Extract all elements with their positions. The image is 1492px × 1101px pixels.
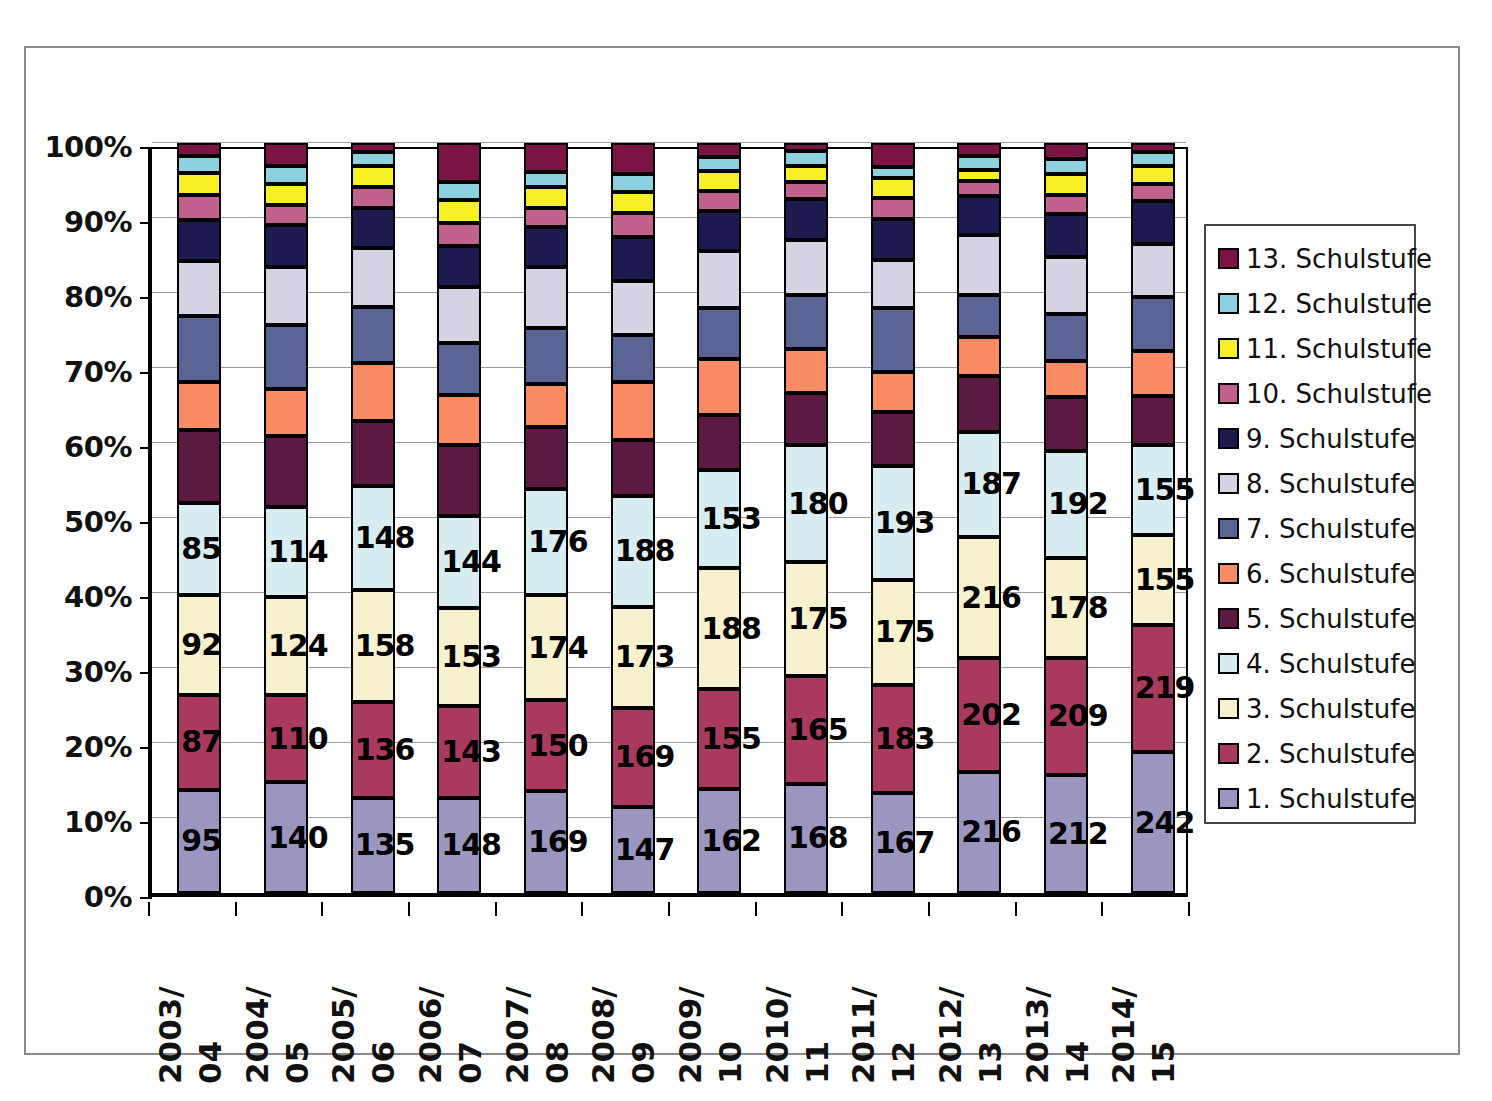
bar-segment[interactable] bbox=[437, 343, 481, 395]
bar-segment[interactable] bbox=[177, 220, 221, 261]
bar-segment[interactable]: 169 bbox=[611, 708, 655, 807]
bar-segment[interactable] bbox=[264, 184, 308, 205]
bar-segment[interactable]: 176 bbox=[524, 489, 568, 596]
bar-segment[interactable] bbox=[697, 157, 741, 171]
bar-segment[interactable] bbox=[871, 219, 915, 260]
bar-segment[interactable]: 148 bbox=[437, 798, 481, 893]
bar-segment[interactable] bbox=[871, 167, 915, 178]
bar-segment[interactable] bbox=[1044, 159, 1088, 174]
bar-segment[interactable]: 242 bbox=[1131, 752, 1175, 893]
bar-segment[interactable] bbox=[697, 415, 741, 470]
legend-item[interactable]: 8. Schulstufe bbox=[1218, 461, 1414, 506]
bar-2007--08[interactable]: 169150174176 bbox=[524, 143, 568, 893]
bar-segment[interactable]: 169 bbox=[524, 791, 568, 893]
bar-segment[interactable] bbox=[1131, 152, 1175, 166]
bar-2011--12[interactable]: 167183175193 bbox=[871, 143, 915, 893]
bar-segment[interactable] bbox=[177, 261, 221, 316]
bar-segment[interactable]: 143 bbox=[437, 706, 481, 798]
bar-segment[interactable]: 193 bbox=[871, 466, 915, 581]
bar-segment[interactable] bbox=[437, 182, 481, 200]
bar-segment[interactable]: 110 bbox=[264, 695, 308, 782]
bar-segment[interactable]: 114 bbox=[264, 507, 308, 597]
bar-segment[interactable] bbox=[264, 325, 308, 390]
bar-segment[interactable]: 178 bbox=[1044, 558, 1088, 658]
bar-segment[interactable] bbox=[1131, 143, 1175, 152]
bar-segment[interactable] bbox=[697, 211, 741, 252]
bar-segment[interactable]: 209 bbox=[1044, 658, 1088, 775]
bar-segment[interactable] bbox=[957, 196, 1001, 235]
bar-segment[interactable]: 187 bbox=[957, 432, 1001, 537]
legend-item[interactable]: 6. Schulstufe bbox=[1218, 551, 1414, 596]
bar-segment[interactable]: 95 bbox=[177, 790, 221, 894]
bar-segment[interactable] bbox=[611, 174, 655, 192]
bar-segment[interactable] bbox=[177, 430, 221, 503]
bar-segment[interactable] bbox=[1044, 143, 1088, 159]
legend-item[interactable]: 7. Schulstufe bbox=[1218, 506, 1414, 551]
legend-item[interactable]: 13. Schulstufe bbox=[1218, 236, 1414, 281]
bar-segment[interactable] bbox=[351, 166, 395, 186]
bar-segment[interactable]: 219 bbox=[1131, 625, 1175, 753]
bar-segment[interactable] bbox=[351, 307, 395, 363]
bar-segment[interactable] bbox=[784, 349, 828, 393]
bar-segment[interactable] bbox=[611, 237, 655, 281]
bar-segment[interactable]: 147 bbox=[611, 807, 655, 893]
bar-segment[interactable] bbox=[524, 172, 568, 188]
bar-segment[interactable] bbox=[264, 143, 308, 166]
bar-segment[interactable]: 140 bbox=[264, 782, 308, 893]
bar-2010--11[interactable]: 168165175180 bbox=[784, 143, 828, 893]
bar-segment[interactable] bbox=[351, 421, 395, 486]
bar-segment[interactable] bbox=[784, 240, 828, 296]
bar-2005--06[interactable]: 135136158148 bbox=[351, 143, 395, 893]
bar-segment[interactable] bbox=[871, 412, 915, 466]
bar-segment[interactable]: 216 bbox=[957, 537, 1001, 659]
bar-segment[interactable] bbox=[611, 213, 655, 237]
bar-2008--09[interactable]: 147169173188 bbox=[611, 143, 655, 893]
bar-segment[interactable]: 168 bbox=[784, 784, 828, 894]
bar-segment[interactable] bbox=[524, 267, 568, 329]
bar-segment[interactable]: 188 bbox=[697, 568, 741, 689]
legend-item[interactable]: 9. Schulstufe bbox=[1218, 416, 1414, 461]
bar-segment[interactable] bbox=[957, 295, 1001, 338]
bar-segment[interactable] bbox=[177, 173, 221, 195]
bar-segment[interactable] bbox=[1044, 214, 1088, 258]
bar-segment[interactable]: 188 bbox=[611, 496, 655, 606]
bar-segment[interactable] bbox=[264, 389, 308, 436]
bar-segment[interactable]: 165 bbox=[784, 676, 828, 783]
bar-segment[interactable]: 173 bbox=[611, 607, 655, 708]
bar-segment[interactable] bbox=[1044, 361, 1088, 397]
bar-segment[interactable] bbox=[871, 198, 915, 219]
bar-segment[interactable] bbox=[177, 156, 221, 173]
bar-segment[interactable] bbox=[437, 287, 481, 343]
bar-segment[interactable]: 153 bbox=[437, 608, 481, 706]
bar-segment[interactable]: 85 bbox=[177, 503, 221, 595]
bar-segment[interactable] bbox=[351, 363, 395, 422]
bar-segment[interactable] bbox=[871, 372, 915, 412]
bar-segment[interactable]: 153 bbox=[697, 470, 741, 568]
bar-segment[interactable] bbox=[871, 143, 915, 167]
bar-segment[interactable]: 158 bbox=[351, 590, 395, 702]
bar-segment[interactable] bbox=[264, 205, 308, 225]
bar-segment[interactable] bbox=[1131, 201, 1175, 245]
bar-segment[interactable]: 167 bbox=[871, 793, 915, 893]
bar-segment[interactable] bbox=[697, 359, 741, 415]
legend-item[interactable]: 4. Schulstufe bbox=[1218, 641, 1414, 686]
legend-item[interactable]: 12. Schulstufe bbox=[1218, 281, 1414, 326]
bar-segment[interactable] bbox=[871, 178, 915, 198]
bar-segment[interactable] bbox=[1131, 184, 1175, 201]
bar-segment[interactable] bbox=[957, 337, 1001, 376]
bar-segment[interactable] bbox=[437, 200, 481, 223]
bar-segment[interactable]: 183 bbox=[871, 685, 915, 794]
bar-segment[interactable] bbox=[611, 335, 655, 382]
legend-item[interactable]: 10. Schulstufe bbox=[1218, 371, 1414, 416]
bar-segment[interactable] bbox=[1131, 396, 1175, 445]
bar-segment[interactable]: 155 bbox=[1131, 445, 1175, 535]
bar-segment[interactable] bbox=[351, 152, 395, 166]
bar-segment[interactable] bbox=[957, 181, 1001, 196]
bar-2014--15[interactable]: 242219155155 bbox=[1131, 143, 1175, 893]
bar-segment[interactable] bbox=[1131, 351, 1175, 396]
legend-item[interactable]: 2. Schulstufe bbox=[1218, 731, 1414, 776]
bar-segment[interactable] bbox=[351, 187, 395, 208]
bar-segment[interactable] bbox=[957, 156, 1001, 170]
legend-item[interactable]: 11. Schulstufe bbox=[1218, 326, 1414, 371]
bar-segment[interactable] bbox=[437, 445, 481, 516]
